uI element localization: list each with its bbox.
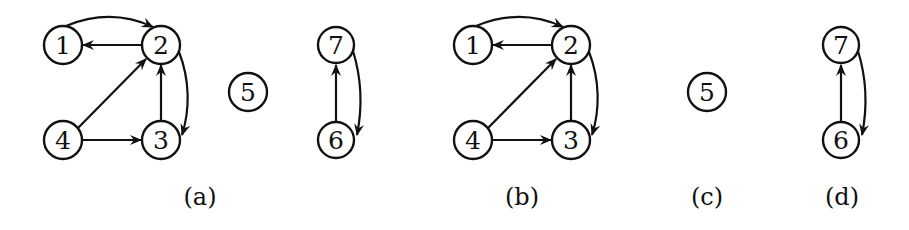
node-1: 1 bbox=[44, 26, 82, 64]
node-2: 2 bbox=[552, 26, 590, 64]
node-label: 3 bbox=[153, 126, 169, 155]
node-label: 6 bbox=[833, 126, 849, 155]
node-3: 3 bbox=[142, 121, 180, 159]
node-6: 6 bbox=[823, 122, 859, 158]
node-7: 7 bbox=[823, 27, 859, 63]
node-4: 4 bbox=[454, 121, 492, 159]
node-label: 4 bbox=[465, 126, 481, 155]
node-label: 4 bbox=[55, 126, 71, 155]
edge-7-to-6 bbox=[353, 51, 360, 135]
graph-figure: 1 2 3 4 5 6 7 (a) bbox=[0, 0, 909, 230]
node-5: 5 bbox=[688, 73, 726, 111]
node-label: 2 bbox=[563, 31, 579, 60]
panel-a: 1 2 3 4 5 6 7 (a) bbox=[44, 17, 360, 211]
node-7: 7 bbox=[318, 27, 354, 63]
node-label: 1 bbox=[465, 31, 481, 60]
node-label: 7 bbox=[833, 31, 849, 60]
node-3: 3 bbox=[552, 121, 590, 159]
node-5: 5 bbox=[229, 73, 267, 111]
node-label: 5 bbox=[699, 78, 715, 107]
panel-d: 6 7 (d) bbox=[823, 27, 865, 211]
caption-b: (b) bbox=[505, 183, 539, 211]
node-2: 2 bbox=[142, 26, 180, 64]
edge-2-to-3 bbox=[589, 52, 598, 135]
panel-c: 5 (c) bbox=[688, 73, 726, 211]
node-4: 4 bbox=[44, 121, 82, 159]
node-label: 2 bbox=[153, 31, 169, 60]
node-6: 6 bbox=[318, 122, 354, 158]
panel-b: 1 2 3 4 (b) bbox=[454, 17, 598, 211]
edge-4-to-2 bbox=[78, 59, 146, 128]
edge-2-to-3 bbox=[179, 52, 188, 135]
edge-1-to-2 bbox=[476, 17, 563, 27]
node-label: 5 bbox=[240, 78, 256, 107]
node-1: 1 bbox=[454, 26, 492, 64]
node-label: 7 bbox=[328, 31, 344, 60]
caption-a: (a) bbox=[183, 183, 216, 211]
node-label: 6 bbox=[328, 126, 344, 155]
edge-4-to-2 bbox=[488, 59, 556, 128]
node-label: 1 bbox=[55, 31, 71, 60]
edge-1-to-2 bbox=[66, 17, 153, 27]
caption-d: (d) bbox=[825, 183, 859, 211]
edge-7-to-6 bbox=[858, 51, 865, 135]
node-label: 3 bbox=[563, 126, 579, 155]
caption-c: (c) bbox=[691, 183, 723, 211]
